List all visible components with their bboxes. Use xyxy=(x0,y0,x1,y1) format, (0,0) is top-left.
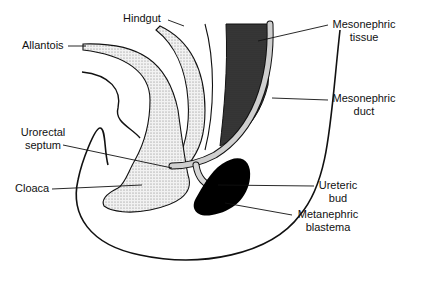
label-urorectal-septum-line2: septum xyxy=(14,139,72,152)
label-cloaca: Cloaca xyxy=(15,182,49,195)
label-mesonephric-tissue-line2: tissue xyxy=(329,31,399,44)
label-urorectal-septum: Urorectal septum xyxy=(14,126,72,152)
label-mesonephric-duct-line1: Mesonephric xyxy=(329,92,399,105)
label-mesonephric-tissue-line1: Mesonephric xyxy=(329,18,399,31)
label-metanephric-blastema: Metanephric blastema xyxy=(293,208,363,234)
label-ureteric-bud-line2: bud xyxy=(314,192,362,205)
label-mesonephric-tissue: Mesonephric tissue xyxy=(329,18,399,44)
label-ureteric-bud-line1: Ureteric xyxy=(314,179,362,192)
metanephric-blastema-shape xyxy=(194,158,250,215)
label-hindgut: Hindgut xyxy=(123,12,161,25)
label-ureteric-bud: Ureteric bud xyxy=(314,179,362,205)
inner-fold xyxy=(82,72,140,138)
label-metanephric-blastema-line1: Metanephric xyxy=(293,208,363,221)
label-allantois: Allantois xyxy=(22,39,64,52)
label-mesonephric-duct: Mesonephric duct xyxy=(329,92,399,118)
label-metanephric-blastema-line2: blastema xyxy=(293,221,363,234)
label-urorectal-septum-line1: Urorectal xyxy=(14,126,72,139)
label-mesonephric-duct-line2: duct xyxy=(329,105,399,118)
hindgut-right-wall xyxy=(205,24,213,150)
